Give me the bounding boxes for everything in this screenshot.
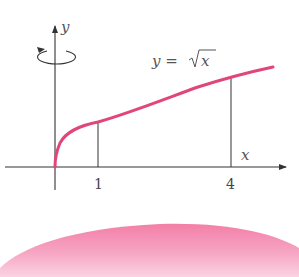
tick-label-1: 1 <box>94 176 103 192</box>
x-axis-label: x <box>241 146 250 164</box>
diagram-canvas: y x 1 4 y = x <box>0 0 299 277</box>
svg-text:y =: y = <box>151 52 178 70</box>
rotation-arrow-icon <box>37 47 76 64</box>
curve-label: y = x <box>151 50 216 70</box>
svg-text:x: x <box>201 52 210 70</box>
tick-label-4: 4 <box>226 176 235 192</box>
y-axis-label: y <box>60 18 70 36</box>
solid-of-revolution <box>0 224 299 277</box>
